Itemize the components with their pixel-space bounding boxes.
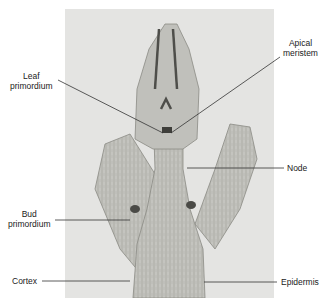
label-epidermis: Epidermis (281, 277, 319, 287)
shoot-tip-illustration (65, 9, 274, 298)
micrograph-photo (65, 9, 274, 298)
label-apical-meristem: Apical meristem (283, 38, 318, 58)
label-leaf-line1: Leaf (10, 71, 53, 81)
label-cortex: Cortex (12, 276, 37, 286)
label-node: Node (287, 163, 307, 173)
label-bud-primordium: Bud primordium (8, 209, 51, 229)
label-bud-line1: Bud (8, 209, 51, 219)
label-leaf-primordium: Leaf primordium (10, 71, 53, 91)
label-bud-line2: primordium (8, 219, 51, 229)
label-leaf-line2: primordium (10, 81, 53, 91)
label-apical-line1: Apical (283, 38, 318, 48)
label-apical-line2: meristem (283, 48, 318, 58)
